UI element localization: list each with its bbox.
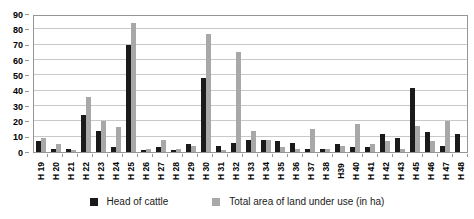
x-axis-tick-mark [378,154,393,157]
bar [236,52,241,152]
x-axis-tick-mark [438,154,453,157]
bar-group [34,16,49,152]
bar [176,149,181,152]
x-axis-tick-mark [288,154,303,157]
bar-group [213,16,228,152]
x-axis-tick-label-text: H 47 [441,162,451,180]
bar [131,23,136,152]
x-axis-tick-label-text: H 45 [411,162,421,180]
bar [71,150,76,152]
x-axis-tick-mark [423,154,438,157]
x-axis-tick-label: H 31 [213,158,228,188]
bar-group [243,16,258,152]
x-axis-tick-label: H 42 [378,158,393,188]
bar [340,146,345,152]
x-axis-tick-mark [363,154,378,157]
x-axis-tick-mark [78,154,93,157]
x-axis-tick-label: H 30 [198,158,213,188]
bar-group [452,16,467,152]
y-axis-tick-mark [25,60,29,61]
x-axis-tick-mark [48,154,63,157]
y-axis-tick-mark [25,121,29,122]
y-axis-tick-mark [25,29,29,30]
y-axis-tick-mark [25,91,29,92]
x-axis-tick-mark [93,154,108,157]
x-axis-tick-mark [138,154,153,157]
x-axis-ticks [33,154,468,157]
bar-group [94,16,109,152]
bar-group [183,16,198,152]
bar-group [124,16,139,152]
bar-group [168,16,183,152]
x-axis-tick-mark [258,154,273,157]
x-axis-tick-label: H 26 [138,158,153,188]
bar [415,126,420,152]
x-axis-tick-label-text: H 48 [456,162,466,180]
x-axis-tick-label-text: H 40 [351,162,361,180]
x-axis-tick-label: H 46 [423,158,438,188]
y-axis-tick-mark [25,106,29,107]
x-axis-tick-label: H 41 [363,158,378,188]
bar-group [273,16,288,152]
legend: Head of cattle Total area of land under … [0,192,474,212]
y-axis-tick-label: 40 [13,86,23,97]
x-axis-tick-mark [333,154,348,157]
x-axis-tick-label-text: H 28 [171,162,181,180]
x-axis-tick-label-text: H 23 [96,162,106,180]
y-axis-tick-label: 60 [13,56,23,67]
x-axis-tick-label: H 43 [393,158,408,188]
bar [101,121,106,152]
x-axis-tick-mark [63,154,78,157]
y-axis-tick-label: 10 [13,132,23,143]
bar [266,140,271,152]
legend-item-cattle: Head of cattle [90,196,169,208]
x-axis-tick-label-text: H 31 [216,162,226,180]
x-axis-tick-label-text: H 25 [126,162,136,180]
bar [161,140,166,152]
bars [34,16,467,152]
x-axis-tick-label-text: H 29 [186,162,196,180]
x-axis-tick-label: H 22 [78,158,93,188]
x-axis-tick-label-text: H 20 [51,162,61,180]
x-axis-tick-label: H 21 [63,158,78,188]
y-axis-tick-mark [25,14,29,15]
bar [221,150,226,152]
bar [455,134,460,152]
x-axis-tick-label: H 32 [228,158,243,188]
x-axis-tick-mark [228,154,243,157]
x-axis-tick-label: H 47 [438,158,453,188]
x-axis-tick-label: H 48 [453,158,468,188]
legend-label-cattle: Head of cattle [107,196,169,208]
y-axis-tick-mark [25,152,29,153]
bar-group [378,16,393,152]
x-axis-tick-label: H 28 [168,158,183,188]
bar-group [318,16,333,152]
x-axis-tick-label: H 38 [318,158,333,188]
bar-group [407,16,422,152]
bar [445,121,450,152]
bar [295,149,300,152]
bar [56,144,61,152]
x-axis-tick-label-text: H 22 [81,162,91,180]
bar-group [422,16,437,152]
x-axis-tick-mark [198,154,213,157]
legend-item-land: Total area of land under use (in ha) [212,196,384,208]
x-axis-tick-label-text: H 38 [321,162,331,180]
x-axis-tick-label-text: H 36 [291,162,301,180]
x-axis-tick-label: H 34 [258,158,273,188]
x-axis-labels: H 19H 20H 21H 22H 23H 24H 25H 26H 27H 28… [33,158,468,188]
x-axis-tick-label-text: H 42 [381,162,391,180]
x-axis-tick-label-text: H 32 [231,162,241,180]
y-axis: 0102030405060708090 [0,15,29,153]
x-axis-tick-mark [408,154,423,157]
y-axis-tick-label: 70 [13,40,23,51]
x-axis-tick-label-text: H 43 [396,162,406,180]
bar-group [258,16,273,152]
legend-label-land: Total area of land under use (in ha) [229,196,384,208]
x-axis-tick-label-text: H 37 [306,162,316,180]
bar [370,144,375,152]
bar-group [288,16,303,152]
bar [191,146,196,152]
legend-swatch-cattle [90,198,98,206]
x-axis-tick-label-text: H 30 [201,162,211,180]
